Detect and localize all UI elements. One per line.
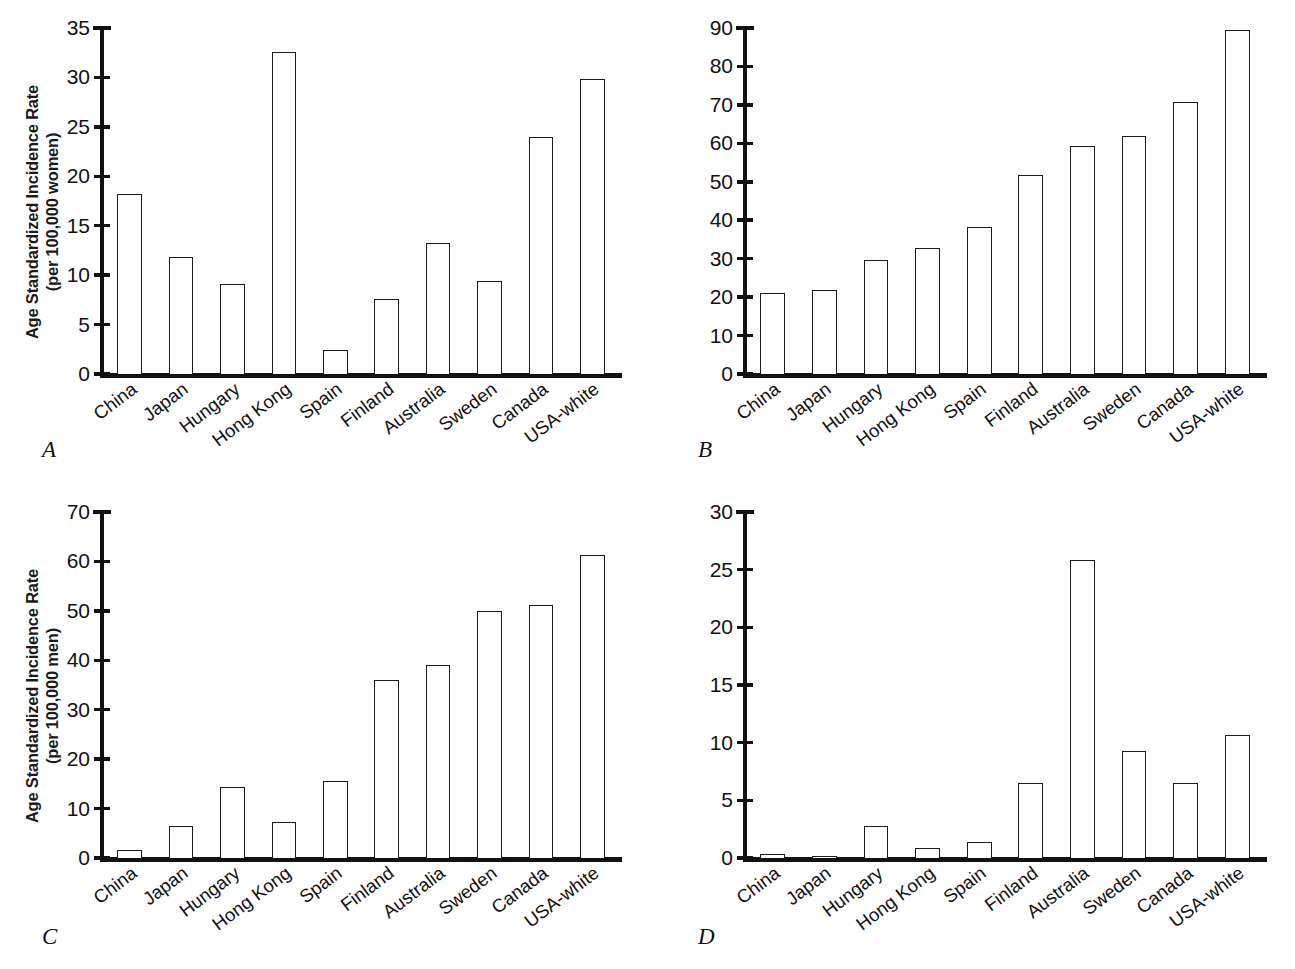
bar-slot — [1108, 28, 1160, 374]
bar-slot — [207, 512, 258, 858]
bar-slot — [515, 512, 566, 858]
bar-slot — [567, 28, 618, 374]
bar-slot — [310, 28, 361, 374]
y-tick-label: 60 — [710, 131, 733, 155]
bar-slot — [412, 28, 463, 374]
y-tick-label: 30 — [710, 500, 733, 524]
y-tick-label: 60 — [67, 549, 90, 573]
bar-slot — [155, 512, 206, 858]
bar-slot — [1211, 28, 1263, 374]
panel-c-letter: C — [42, 924, 57, 950]
y-tick-label: 15 — [710, 673, 733, 697]
panel-d-bars — [747, 512, 1263, 858]
bar-slot — [902, 28, 954, 374]
bar-slot — [1057, 512, 1109, 858]
y-tick-label: 0 — [721, 846, 733, 870]
y-tick-label: 50 — [67, 599, 90, 623]
y-tick-label: 20 — [67, 747, 90, 771]
panel-c: Age Standardized Incidence Rate(per 100,… — [0, 484, 648, 969]
y-tick-label: 10 — [710, 324, 733, 348]
bar-slot — [258, 28, 309, 374]
panel-a-x-tick-labels: ChinaJapanHungaryHong KongSpainFinlandAu… — [104, 378, 622, 484]
y-tick-label: 0 — [78, 362, 90, 386]
bar — [580, 79, 605, 374]
bar — [580, 555, 605, 858]
bar — [1018, 175, 1043, 374]
bar-slot — [515, 28, 566, 374]
bar-slot — [1005, 28, 1057, 374]
y-tick-label: 25 — [67, 115, 90, 139]
y-tick-label: 5 — [721, 788, 733, 812]
y-tick-label: 70 — [710, 93, 733, 117]
y-tick-label: 80 — [710, 54, 733, 78]
bar-slot — [953, 512, 1005, 858]
bar-slot — [799, 512, 851, 858]
bar-slot — [258, 512, 309, 858]
y-tick-label: 5 — [78, 313, 90, 337]
bar-slot — [412, 512, 463, 858]
bar-slot — [464, 512, 515, 858]
x-tick-label-text: China — [89, 378, 141, 425]
panel-b-bars — [747, 28, 1263, 374]
y-tick-label: 40 — [710, 208, 733, 232]
bar-slot — [1160, 512, 1212, 858]
y-tick-label: 30 — [710, 247, 733, 271]
panel-a-letter: A — [42, 437, 56, 463]
bar — [117, 194, 142, 374]
bar — [1070, 146, 1095, 374]
y-tick-label: 25 — [710, 558, 733, 582]
bar-slot — [464, 28, 515, 374]
panel-d-letter: D — [698, 924, 715, 950]
y-axis-title-line1: Age Standardized Incidence Rate — [23, 569, 41, 823]
bar-slot — [155, 28, 206, 374]
bar — [1070, 560, 1095, 858]
panel-c-x-tick-labels: ChinaJapanHungaryHong KongSpainFinlandAu… — [104, 862, 622, 968]
bar-slot — [567, 512, 618, 858]
bar-slot — [361, 28, 412, 374]
bar-slot — [361, 512, 412, 858]
bar-slot — [104, 512, 155, 858]
bar-slot — [1005, 512, 1057, 858]
panel-a: Age Standardized Incidence Rate(per 100,… — [0, 0, 648, 484]
y-tick-label: 10 — [67, 797, 90, 821]
bar — [374, 680, 399, 858]
panel-c-y-axis-title: Age Standardized Incidence Rate(per 100,… — [22, 516, 66, 876]
y-tick-label: 10 — [710, 731, 733, 755]
y-tick-label: 20 — [710, 285, 733, 309]
y-tick-label: 30 — [67, 65, 90, 89]
bar — [529, 605, 554, 858]
panel-b: 0102030405060708090 ChinaJapanHungaryHon… — [648, 0, 1295, 484]
bar-slot — [747, 512, 799, 858]
bar — [760, 293, 785, 374]
bar-slot — [1211, 512, 1263, 858]
y-tick-label: 90 — [710, 16, 733, 40]
panel-b-x-tick-labels: ChinaJapanHungaryHong KongSpainFinlandAu… — [747, 378, 1267, 484]
bar-slot — [104, 28, 155, 374]
panel-b-letter: B — [698, 437, 712, 463]
y-tick-label: 10 — [67, 263, 90, 287]
y-tick-label: 70 — [67, 500, 90, 524]
x-tick-label-text: China — [732, 378, 784, 425]
y-axis-title-line2: (per 100,000 men) — [43, 628, 61, 764]
y-tick-label: 20 — [710, 615, 733, 639]
panel-c-bars — [104, 512, 618, 858]
y-tick-label: 0 — [78, 846, 90, 870]
panel-d-x-tick-labels: ChinaJapanHungaryHong KongSpainFinlandAu… — [747, 862, 1267, 968]
bar — [1173, 102, 1198, 374]
y-axis-title-line1: Age Standardized Incidence Rate — [23, 85, 41, 339]
y-tick-label: 50 — [710, 170, 733, 194]
y-tick-label: 15 — [67, 214, 90, 238]
bar-slot — [207, 28, 258, 374]
y-tick-label: 35 — [67, 16, 90, 40]
four-panel-bar-chart-figure: Age Standardized Incidence Rate(per 100,… — [0, 0, 1295, 969]
bar-slot — [850, 512, 902, 858]
bar-slot — [902, 512, 954, 858]
bar-slot — [953, 28, 1005, 374]
bar-slot — [310, 512, 361, 858]
bar — [272, 52, 297, 374]
bar-slot — [1160, 28, 1212, 374]
panel-a-y-axis-title: Age Standardized Incidence Rate(per 100,… — [22, 32, 66, 392]
panel-d: 051015202530 ChinaJapanHungaryHong KongS… — [648, 484, 1295, 969]
bar-slot — [1057, 28, 1109, 374]
y-tick-label: 20 — [67, 164, 90, 188]
